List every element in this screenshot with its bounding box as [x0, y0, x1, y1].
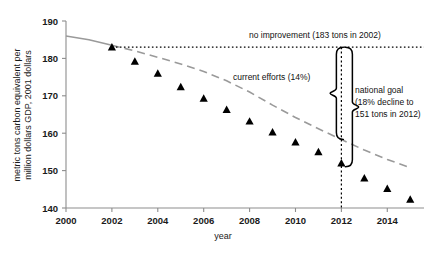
annotation-national-goal-line1: national goal [355, 85, 403, 95]
y-axis-title-line2: million dollars GDP, 2001 dollars [23, 50, 33, 180]
x-tick-label: 2000 [55, 215, 76, 226]
x-tick-label: 2002 [101, 215, 122, 226]
emissions-intensity-chart: 140150160170180190 200020022004200620082… [0, 0, 431, 258]
annotation-national-goal-line2: (18% decline to [355, 97, 414, 107]
x-tick-label: 2012 [331, 215, 352, 226]
x-axis-title: year [214, 231, 232, 241]
x-tick-label: 2010 [285, 215, 306, 226]
y-tick-label: 170 [42, 90, 58, 101]
x-tick-label: 2006 [193, 215, 214, 226]
x-tick-label: 2004 [147, 215, 169, 226]
y-tick-label: 140 [42, 203, 58, 214]
annotation-no-improvement: no improvement (183 tons in 2002) [249, 30, 381, 40]
y-tick-label: 180 [42, 53, 58, 64]
annotation-current-efforts: current efforts (14%) [233, 72, 310, 82]
x-tick-label: 2014 [377, 215, 399, 226]
chart-container: 140150160170180190 200020022004200620082… [0, 0, 431, 258]
y-tick-label: 150 [42, 165, 58, 176]
y-tick-label: 190 [42, 16, 58, 27]
x-tick-label: 2008 [239, 215, 260, 226]
y-tick-label: 160 [42, 128, 58, 139]
annotation-national-goal-line3: 151 tons in 2012) [355, 109, 421, 119]
y-axis-title-line1: metric tons carbon equivalent per [12, 48, 22, 181]
